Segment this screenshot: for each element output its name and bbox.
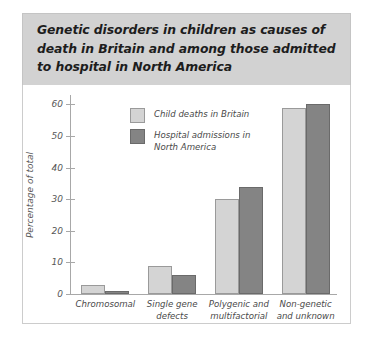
bar: [148, 266, 172, 294]
plot-area: Percentage of total 0102030405060 Chromo…: [70, 95, 337, 295]
y-axis-line: [70, 95, 71, 295]
bar: [239, 187, 263, 294]
y-tick-mark: [66, 136, 75, 137]
legend-label-child-deaths: Child deaths in Britain: [154, 108, 249, 121]
chart-title: Genetic disorders in children as causes …: [37, 21, 337, 77]
y-tick-mark: [66, 294, 75, 295]
legend-swatch-hospital-admissions: [130, 129, 145, 144]
y-tick-mark: [66, 104, 75, 105]
legend-swatch-child-deaths: [130, 108, 145, 123]
bar: [172, 275, 196, 294]
y-tick-mark: [66, 231, 75, 232]
x-axis-line: [70, 294, 337, 295]
y-axis-title: Percentage of total: [25, 152, 35, 238]
y-tick-mark: [66, 199, 75, 200]
chart-panel: Percentage of total 0102030405060 Chromo…: [22, 85, 351, 324]
y-tick-label: 10: [52, 257, 63, 267]
chart-figure: Genetic disorders in children as causes …: [22, 13, 351, 324]
x-axis-label: Chromosomal: [72, 299, 139, 311]
bar: [81, 285, 105, 294]
y-tick-label: 50: [52, 131, 63, 141]
legend-item: Child deaths in Britain: [130, 108, 300, 123]
x-axis-label: Non-genetic and unknown: [272, 299, 339, 322]
legend-item: Hospital admissions in North America: [130, 129, 300, 153]
y-tick-label: 0: [57, 289, 63, 299]
y-tick-label: 40: [52, 163, 63, 173]
y-tick-label: 20: [52, 226, 63, 236]
x-axis-label: Single gene defects: [139, 299, 206, 322]
bar: [215, 199, 239, 294]
y-tick-label: 30: [52, 194, 63, 204]
bar: [105, 291, 129, 294]
y-tick-mark: [66, 262, 75, 263]
chart-title-band: Genetic disorders in children as causes …: [22, 13, 351, 85]
bar: [306, 104, 330, 294]
legend-label-hospital-admissions: Hospital admissions in North America: [154, 129, 250, 153]
x-axis-label: Polygenic and multifactorial: [206, 299, 273, 322]
y-tick-label: 60: [52, 99, 63, 109]
chart-legend: Child deaths in Britain Hospital admissi…: [130, 108, 300, 159]
y-tick-mark: [66, 168, 75, 169]
